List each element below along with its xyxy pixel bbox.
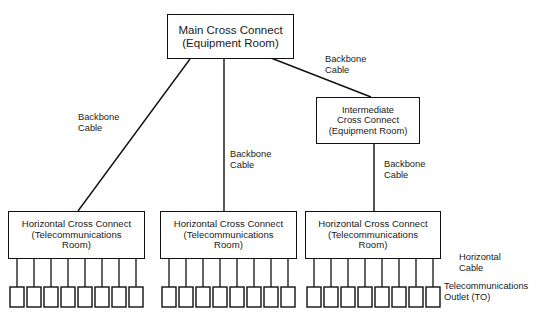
connector-mcc-to-hcc1 xyxy=(78,59,190,211)
telecommunications-outlet xyxy=(307,287,321,307)
telecommunications-outlet xyxy=(341,287,355,307)
node-horizontal-cross-connect-2: Horizontal Cross Connect (Telecommunicat… xyxy=(160,211,297,259)
node-horizontal-cross-connect-3-label: Horizontal Cross Connect (Telecommunicat… xyxy=(318,219,427,251)
node-horizontal-cross-connect-3: Horizontal Cross Connect (Telecommunicat… xyxy=(305,211,441,259)
label-horizontal-cable: Horizontal Cable xyxy=(459,252,501,275)
telecommunications-outlet xyxy=(324,287,338,307)
node-main-cross-connect: Main Cross Connect (Equipment Room) xyxy=(167,14,294,59)
node-intermediate-cross-connect: Intermediate Cross Connect (Equipment Ro… xyxy=(316,97,420,144)
telecommunications-outlet xyxy=(78,287,92,307)
telecommunications-outlet xyxy=(281,287,295,307)
node-horizontal-cross-connect-1: Horizontal Cross Connect (Telecommunicat… xyxy=(8,211,145,259)
label-backbone-cable-right-top: Backbone Cable xyxy=(325,54,366,77)
telecommunications-outlet xyxy=(162,287,176,307)
telecommunications-outlet xyxy=(247,287,261,307)
telecommunications-outlet xyxy=(179,287,193,307)
telecommunications-outlet xyxy=(112,287,126,307)
telecommunications-outlet xyxy=(129,287,143,307)
telecommunications-outlet xyxy=(264,287,278,307)
telecommunications-outlet xyxy=(409,287,423,307)
node-horizontal-cross-connect-1-label: Horizontal Cross Connect (Telecommunicat… xyxy=(22,219,131,251)
node-main-cross-connect-label: Main Cross Connect (Equipment Room) xyxy=(178,24,282,50)
telecommunications-outlet xyxy=(27,287,41,307)
telecommunications-outlet xyxy=(213,287,227,307)
cabling-hierarchy-diagram: Main Cross Connect (Equipment Room) Inte… xyxy=(0,0,553,319)
telecommunications-outlet xyxy=(196,287,210,307)
telecommunications-outlet xyxy=(375,287,389,307)
telecommunications-outlet xyxy=(44,287,58,307)
outlet-group-3 xyxy=(307,259,440,307)
node-intermediate-cross-connect-label: Intermediate Cross Connect (Equipment Ro… xyxy=(329,105,408,137)
telecommunications-outlet xyxy=(61,287,75,307)
label-backbone-cable-left: Backbone Cable xyxy=(78,112,119,135)
telecommunications-outlet xyxy=(230,287,244,307)
telecommunications-outlet xyxy=(358,287,372,307)
label-backbone-cable-right-mid: Backbone Cable xyxy=(384,159,425,182)
telecommunications-outlet xyxy=(426,287,440,307)
telecommunications-outlet xyxy=(95,287,109,307)
outlet-group-1 xyxy=(10,259,143,307)
telecommunications-outlet xyxy=(392,287,406,307)
label-backbone-cable-center: Backbone Cable xyxy=(230,149,271,172)
outlet-group-2 xyxy=(162,259,295,307)
label-telecommunications-outlet: Telecommunications Outlet (TO) xyxy=(444,281,528,304)
node-horizontal-cross-connect-2-label: Horizontal Cross Connect (Telecommunicat… xyxy=(174,219,283,251)
telecommunications-outlet xyxy=(10,287,24,307)
